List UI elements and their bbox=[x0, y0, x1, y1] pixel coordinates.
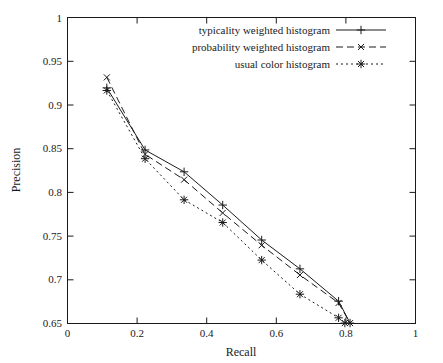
series-0 bbox=[103, 84, 355, 328]
chart-container: 0 0.2 0.4 0.6 0.8 1 0.65 0.7 0.75 0.8 0.… bbox=[0, 0, 443, 363]
x-tick-label: 0.6 bbox=[269, 327, 283, 339]
data-point-marker bbox=[220, 210, 226, 216]
y-tick-label: 1 bbox=[57, 12, 63, 24]
x-tick-labels: 0 0.2 0.4 0.6 0.8 1 bbox=[65, 327, 419, 339]
y-tick-label: 0.85 bbox=[43, 142, 63, 154]
legend-label-2: usual color histogram bbox=[235, 58, 331, 70]
y-tick-label: 0.95 bbox=[43, 55, 63, 67]
precision-recall-chart: 0 0.2 0.4 0.6 0.8 1 0.65 0.7 0.75 0.8 0.… bbox=[0, 0, 443, 363]
data-point-marker bbox=[341, 319, 349, 327]
x-tick-label: 1 bbox=[413, 327, 419, 339]
data-point-marker bbox=[141, 154, 149, 162]
legend-label-1: probability weighted histogram bbox=[192, 41, 331, 53]
data-point-marker bbox=[296, 290, 304, 298]
chart-legend: typicality weighted histogramprobability… bbox=[192, 24, 386, 70]
y-tick-label: 0.8 bbox=[48, 186, 62, 198]
x-axis-title: Recall bbox=[226, 345, 257, 359]
data-point-marker bbox=[357, 26, 365, 34]
data-point-marker bbox=[104, 74, 110, 80]
series-2 bbox=[103, 86, 349, 327]
x-tick-label: 0.4 bbox=[200, 327, 214, 339]
data-point-marker bbox=[103, 86, 111, 94]
x-tick-label: 0.8 bbox=[339, 327, 353, 339]
data-point-marker bbox=[334, 314, 342, 322]
series-1 bbox=[104, 74, 353, 326]
y-axis-title: Precision bbox=[9, 148, 23, 193]
data-point-marker bbox=[257, 256, 265, 264]
data-point-marker bbox=[180, 196, 188, 204]
y-tick-label: 0.9 bbox=[48, 99, 62, 111]
y-tick-labels: 0.65 0.7 0.75 0.8 0.85 0.9 0.95 1 bbox=[43, 12, 63, 330]
series-layer bbox=[103, 74, 355, 327]
data-point-marker bbox=[219, 218, 227, 226]
x-tick-label: 0.2 bbox=[130, 327, 144, 339]
data-point-marker bbox=[181, 177, 187, 183]
x-tick-label: 0 bbox=[65, 327, 71, 339]
y-tick-label: 0.65 bbox=[43, 317, 63, 329]
y-tick-label: 0.7 bbox=[48, 273, 62, 285]
y-tick-label: 0.75 bbox=[43, 230, 63, 242]
legend-label-0: typicality weighted histogram bbox=[199, 24, 331, 36]
data-point-marker bbox=[357, 60, 365, 68]
